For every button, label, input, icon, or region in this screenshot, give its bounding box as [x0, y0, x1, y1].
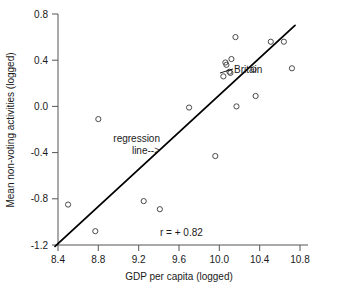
data-point: [281, 39, 286, 44]
y-axis-title: Mean non-voting activities (logged): [5, 52, 16, 207]
y-tick-label: -0.8: [31, 193, 49, 204]
regression-annotation-line1: regression: [113, 133, 160, 144]
data-point: [253, 93, 258, 98]
y-tick-label: -0.4: [31, 147, 49, 158]
x-tick-label: 10.4: [250, 254, 270, 265]
x-tick-label: 10.0: [210, 254, 230, 265]
x-axis-title: GDP per capita (logged): [125, 271, 233, 282]
y-axis-ticks: 0.8 0.4 0.0 -0.4 -0.8 -1.2: [31, 9, 58, 251]
data-point: [213, 153, 218, 158]
data-point: [268, 39, 273, 44]
data-point: [289, 66, 294, 71]
scatter-plot-figure: Mean non-voting activities (logged) 0.8 …: [0, 0, 359, 291]
regression-annotation-line2: line-->: [132, 145, 160, 156]
data-point: [221, 74, 226, 79]
correlation-annotation: r = + 0.82: [160, 227, 203, 238]
regression-line: [55, 25, 295, 246]
y-tick-label: 0.0: [34, 101, 48, 112]
data-point: [96, 117, 101, 122]
chart-canvas: Mean non-voting activities (logged) 0.8 …: [0, 0, 359, 291]
data-point: [65, 202, 70, 207]
data-point: [229, 56, 234, 61]
y-tick-label: 0.4: [34, 55, 48, 66]
data-point: [141, 199, 146, 204]
data-point: [157, 207, 162, 212]
data-point: [186, 105, 191, 110]
britain-label: Britain: [234, 64, 262, 75]
x-axis-ticks: 8.4 8.8 9.2 9.6 10.0 10.4 10.8: [51, 245, 310, 265]
x-tick-label: 8.8: [91, 254, 105, 265]
data-point: [93, 229, 98, 234]
x-tick-label: 9.6: [172, 254, 186, 265]
x-tick-label: 10.8: [290, 254, 310, 265]
data-point: [233, 35, 238, 40]
data-point: [234, 104, 239, 109]
y-tick-label: -1.2: [31, 240, 49, 251]
x-tick-label: 8.4: [51, 254, 65, 265]
x-tick-label: 9.2: [132, 254, 146, 265]
y-tick-label: 0.8: [34, 9, 48, 20]
